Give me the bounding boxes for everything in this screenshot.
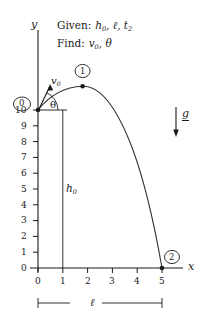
y-axis-label: y (31, 18, 37, 31)
range-dimension (38, 298, 162, 308)
trajectory-curve (38, 86, 162, 268)
y-tick-label-2: 2 (21, 231, 27, 241)
x-tick-label-1: 1 (60, 276, 66, 286)
given-label: Given: (57, 18, 91, 32)
velocity-label: v0 (51, 75, 61, 87)
x-tick-label-4: 4 (134, 276, 140, 286)
gravity-vector-arrow (173, 107, 179, 137)
range-label: ℓ (90, 296, 94, 308)
apex-point-marker (80, 84, 85, 89)
y-tick-label-3: 3 (21, 215, 27, 225)
gravity-label: g (182, 108, 189, 121)
problem-statement: Given:h0, ℓ, t2 Find:v0, θ (57, 18, 132, 54)
given-values: h0, ℓ, t2 (95, 18, 132, 36)
y-tick-label-5: 5 (21, 184, 27, 194)
landing-point-marker (160, 266, 165, 271)
x-tick-label-2: 2 (85, 276, 91, 286)
y-axis-ticks (33, 110, 38, 252)
find-row: Find:v0, θ (57, 36, 132, 54)
y-tick-label-8: 8 (21, 137, 27, 147)
apex-point-label: 1 (80, 66, 85, 76)
x-tick-label-0: 0 (35, 276, 41, 286)
x-axis-ticks (38, 268, 162, 273)
y-tick-label-1: 1 (21, 247, 27, 257)
y-tick-label-9: 9 (21, 121, 27, 131)
y-tick-label-4: 4 (21, 200, 27, 210)
x-axis-label: x (188, 260, 194, 273)
y-tick-label-6: 6 (21, 168, 27, 178)
y-tick-label-7: 7 (21, 152, 27, 162)
launch-point-marker (36, 108, 41, 113)
landing-point-label: 2 (169, 252, 174, 262)
find-values: v0, θ (89, 36, 112, 54)
y-tick-label-0: 0 (21, 263, 27, 273)
x-tick-label-3: 3 (109, 276, 115, 286)
angle-label: θ (50, 99, 56, 110)
given-row: Given:h0, ℓ, t2 (57, 18, 132, 36)
x-tick-label-5: 5 (159, 276, 165, 286)
find-label: Find: (57, 36, 85, 50)
launch-point-label: 0 (19, 98, 24, 108)
height-label: h0 (66, 182, 77, 196)
